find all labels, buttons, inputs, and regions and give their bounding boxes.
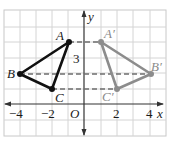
label-a: A xyxy=(55,28,64,43)
label-c: C xyxy=(55,90,64,105)
y-axis-label: y xyxy=(86,9,94,24)
origin-label: O xyxy=(70,106,80,121)
x-tick-2: 2 xyxy=(113,106,120,121)
x-tick-neg4: −4 xyxy=(9,106,23,121)
point-c-prime xyxy=(114,86,120,92)
x-tick-neg2: −2 xyxy=(41,106,55,121)
label-b-prime: B′ xyxy=(151,59,162,74)
x-axis-label: x xyxy=(156,106,163,121)
label-a-prime: A′ xyxy=(103,26,115,41)
label-b: B xyxy=(7,66,15,81)
point-b xyxy=(17,71,23,77)
x-tick-4: 4 xyxy=(146,106,153,121)
coordinate-plane: A B C A′ B′ C′ y x O −4 −2 2 4 3 xyxy=(0,0,173,143)
y-tick-3: 3 xyxy=(73,51,80,66)
point-a xyxy=(66,39,72,45)
label-c-prime: C′ xyxy=(102,89,114,104)
